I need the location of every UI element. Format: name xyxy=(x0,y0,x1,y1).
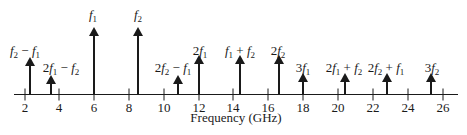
spectral-line-2f2-minus-f1 xyxy=(173,75,183,95)
label-2f1-plus-f2: 2f1 + f2 xyxy=(326,61,363,74)
label-f2-minus-f1: f2 − f1 xyxy=(10,44,40,57)
spectral-line-f1-plus-f2 xyxy=(235,55,245,95)
spectral-line-f1 xyxy=(89,27,99,95)
tick-label: 2 xyxy=(22,101,29,114)
spectrum-diagram: f2 − f12f1 − f2f1f22f2 − f12f1f1 + f22f2… xyxy=(0,0,467,135)
arrowhead-icon xyxy=(89,27,99,36)
label-3f1: 3f1 xyxy=(296,61,311,74)
label-3f2: 3f2 xyxy=(425,61,440,74)
tick-label: 20 xyxy=(332,101,345,114)
arrowhead-icon xyxy=(25,57,35,66)
tick-label: 10 xyxy=(158,101,171,114)
tick-label: 8 xyxy=(126,101,133,114)
label-2f2-minus-f1: 2f2 − f1 xyxy=(155,61,192,74)
label-f1-plus-f2: f1 + f2 xyxy=(225,44,255,57)
spectral-line-f2 xyxy=(133,27,143,95)
tick-label: 24 xyxy=(402,101,415,114)
spectral-line-2f1 xyxy=(194,55,204,95)
tick-label: 18 xyxy=(297,101,310,114)
label-2f1: 2f1 xyxy=(193,44,208,57)
tick-label: 26 xyxy=(437,101,450,114)
label-f2: f2 xyxy=(134,8,142,21)
tick-label: 6 xyxy=(91,101,98,114)
x-axis-label: Frequency (GHz) xyxy=(190,111,281,124)
tick-label: 4 xyxy=(56,101,63,114)
spectral-line-2f1-plus-f2 xyxy=(340,73,350,95)
spectral-line-2f2-plus-f1 xyxy=(382,73,392,95)
label-2f1-minus-f2: 2f1 − f2 xyxy=(43,61,80,74)
tick-label: 22 xyxy=(367,101,380,114)
arrowhead-icon xyxy=(133,27,143,36)
label-2f2: 2f2 xyxy=(271,44,286,57)
label-f1: f1 xyxy=(89,8,97,21)
spectral-line-2f1-minus-f2 xyxy=(46,75,56,95)
spectral-line-2f2 xyxy=(274,55,284,95)
spectral-line-f2-minus-f1 xyxy=(25,57,35,95)
label-2f2-plus-f1: 2f2 + f1 xyxy=(368,61,405,74)
arrowhead-icon xyxy=(173,75,183,84)
